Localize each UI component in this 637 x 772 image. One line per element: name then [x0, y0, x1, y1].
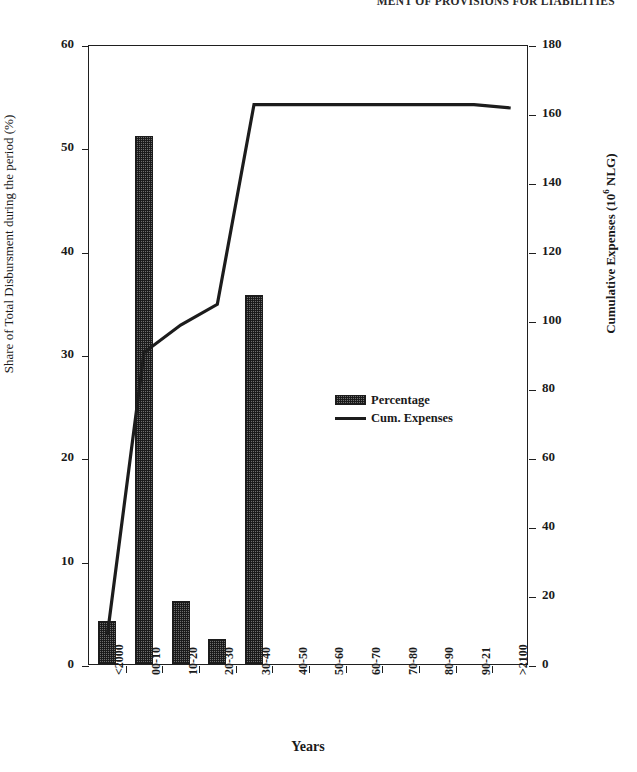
y-axis-left-tick [82, 253, 89, 254]
x-axis-title: Years [88, 739, 528, 755]
x-axis-tick-label-80-90: 80-90 [442, 647, 457, 675]
y-axis-right-tick [529, 390, 536, 391]
axis-ticks-layer [89, 46, 527, 664]
y-axis-right-tick [529, 528, 536, 529]
x-axis-tick-label->2100: >2100 [516, 644, 531, 675]
y-axis-left-tick-label: 60 [28, 36, 74, 52]
y-axis-right-tick-label: 60 [542, 449, 592, 465]
y-axis-right-title-pre: Cumulative Expenses (10 [603, 194, 618, 334]
y-axis-left-tick-label: 0 [28, 656, 74, 672]
legend-item-percentage: Percentage [335, 391, 453, 409]
y-axis-left-tick [82, 46, 89, 47]
x-axis-tick-label-90-21: 90-21 [479, 647, 494, 675]
y-axis-left-tick [82, 666, 89, 667]
y-axis-left-tick-label: 10 [28, 553, 74, 569]
legend-item-cum-expenses: Cum. Expenses [335, 409, 453, 427]
y-axis-right-tick [529, 597, 536, 598]
y-axis-right-tick [529, 253, 536, 254]
y-axis-left-tick [82, 563, 89, 564]
legend-label-cum-expenses: Cum. Expenses [371, 411, 453, 426]
x-axis-tick-label-70-80: 70-80 [406, 647, 421, 675]
y-axis-right-tick-label: 100 [542, 312, 592, 328]
x-axis-tick-label-50-60: 50-60 [332, 647, 347, 675]
x-axis-tick-label-<2000: <2000 [112, 644, 127, 675]
y-axis-left-tick-label: 50 [28, 139, 74, 155]
y-axis-right-tick-label: 20 [542, 587, 592, 603]
x-axis-tick-label-10-20: 10-20 [186, 647, 201, 675]
y-axis-left-tick-label: 30 [28, 346, 74, 362]
legend-swatch-line-icon [335, 417, 366, 420]
y-axis-left-tick-label: 40 [28, 243, 74, 259]
y-axis-right-tick-label: 160 [542, 105, 592, 121]
y-axis-right-tick [529, 184, 536, 185]
y-axis-right-tick-label: 120 [542, 243, 592, 259]
chart-legend: Percentage Cum. Expenses [335, 391, 453, 427]
y-axis-right-tick [529, 46, 536, 47]
x-axis-tick-label-00-10: 00-10 [149, 647, 164, 675]
y-axis-right-tick-label: 80 [542, 380, 592, 396]
legend-label-percentage: Percentage [371, 393, 430, 408]
y-axis-right-tick-label: 0 [542, 656, 592, 672]
y-axis-right-tick [529, 115, 536, 116]
x-axis-tick-label-30-40: 30-40 [259, 647, 274, 675]
y-axis-right-tick-label: 140 [542, 174, 592, 190]
legend-swatch-bar-icon [335, 395, 366, 405]
y-axis-left-title: Share of Total Disbursment during the pe… [1, 29, 17, 459]
y-axis-right-tick [529, 459, 536, 460]
y-axis-left-tick [82, 149, 89, 150]
y-axis-right-title-post: NLG) [603, 153, 618, 189]
x-axis-tick-label-40-50: 40-50 [296, 647, 311, 675]
x-axis-tick-label-20-30: 20-30 [222, 647, 237, 675]
x-axis-tick-label-60-70: 60-70 [369, 647, 384, 675]
y-axis-right-title: Cumulative Expenses (106 NLG) [601, 29, 618, 459]
y-axis-left-tick [82, 459, 89, 460]
y-axis-right-tick-label: 40 [542, 518, 592, 534]
figure-container: 0102030405060020406080100120140160180<20… [0, 0, 637, 772]
y-axis-right-title-exponent: 6 [601, 189, 611, 194]
plot-area [88, 45, 528, 665]
y-axis-left-tick [82, 356, 89, 357]
y-axis-right-tick-label: 180 [542, 36, 592, 52]
y-axis-right-tick [529, 322, 536, 323]
y-axis-left-tick-label: 20 [28, 449, 74, 465]
